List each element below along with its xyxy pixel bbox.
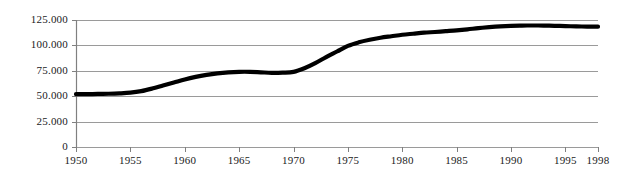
x-axis-tick-label: 1965 — [228, 155, 251, 166]
x-axis-labels: 1950195519601965197019751980198519901995… — [0, 155, 621, 177]
x-axis-tick-label: 1990 — [500, 155, 523, 166]
x-axis-tick-label: 1985 — [445, 155, 468, 166]
y-axis-ticks — [72, 21, 76, 148]
x-axis-tick-label: 1950 — [65, 155, 88, 166]
data-line-series-1 — [76, 25, 598, 94]
x-axis-tick-label: 1995 — [554, 155, 577, 166]
x-axis-tick-label: 1975 — [336, 155, 359, 166]
x-axis-tick-label: 1980 — [391, 155, 414, 166]
chart-container: 025.00050.00075.000100.000125.000 195019… — [0, 0, 621, 184]
x-axis-tick-label: 1960 — [173, 155, 196, 166]
gridlines — [76, 21, 598, 148]
x-axis-tick-label: 1970 — [282, 155, 305, 166]
x-axis-tick-label: 1998 — [587, 155, 610, 166]
x-axis-tick-label: 1955 — [119, 155, 142, 166]
